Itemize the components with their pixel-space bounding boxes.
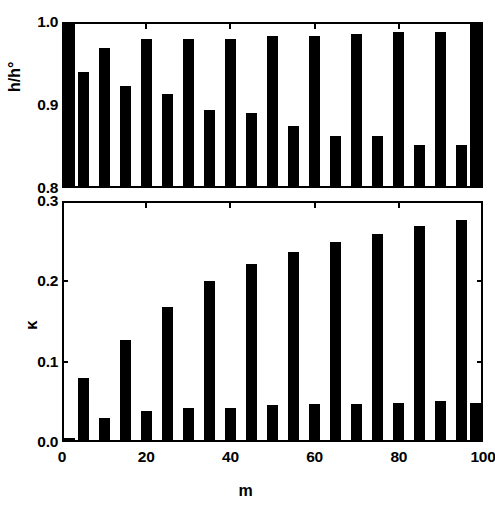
bar	[351, 404, 362, 440]
bar	[225, 39, 236, 186]
bar	[204, 110, 215, 186]
y-tick-label: 0.0	[37, 433, 58, 451]
x-tick-label: 20	[138, 448, 155, 466]
y-tick-mark	[477, 280, 483, 282]
x-tick-mark	[145, 22, 147, 29]
bar	[267, 36, 278, 186]
bar-series-bottom	[62, 201, 483, 442]
y-tick-label: 0.3	[37, 192, 58, 210]
y-tick-label: 0.9	[37, 96, 58, 114]
bar	[162, 307, 173, 441]
y-tick-mark	[477, 104, 483, 106]
x-tick-label: 60	[306, 448, 323, 466]
y-axis-title-top: h/h°	[6, 62, 24, 92]
bar	[393, 403, 404, 440]
bar	[372, 136, 383, 186]
bar-series-top	[62, 22, 483, 188]
bar	[78, 72, 89, 186]
bar	[99, 418, 110, 440]
panel-bottom	[62, 201, 483, 442]
x-tick-mark	[398, 201, 400, 208]
bar	[372, 234, 383, 440]
x-tick-label: 80	[390, 448, 407, 466]
bar	[393, 32, 404, 186]
x-tick-mark	[314, 22, 316, 29]
bar	[183, 39, 194, 186]
bar	[120, 340, 131, 440]
x-axis-title: m	[0, 482, 491, 500]
x-tick-label: 40	[222, 448, 239, 466]
bar	[141, 39, 152, 186]
y-tick-label: 0.2	[37, 272, 58, 290]
bar	[309, 404, 320, 440]
panel-top	[62, 22, 483, 188]
bar	[288, 252, 299, 440]
bar	[435, 401, 446, 440]
bar	[225, 408, 236, 440]
x-tick-mark	[229, 22, 231, 29]
bar	[456, 145, 467, 186]
bar	[162, 94, 173, 186]
bar	[267, 405, 278, 440]
x-tick-mark	[398, 22, 400, 29]
bar	[183, 408, 194, 440]
bar	[435, 32, 446, 186]
x-tick-label: 0	[58, 448, 66, 466]
bar	[99, 48, 110, 187]
y-tick-mark	[62, 361, 68, 363]
y-tick-mark	[62, 280, 68, 282]
bar	[330, 242, 341, 440]
bar	[414, 145, 425, 186]
y-tick-mark	[62, 104, 68, 106]
bar	[246, 264, 257, 440]
bar	[470, 403, 481, 440]
bar	[78, 378, 89, 440]
bar	[204, 281, 215, 440]
bar	[288, 126, 299, 186]
bar	[120, 86, 131, 186]
bar	[64, 438, 75, 440]
bar	[414, 226, 425, 440]
bar	[351, 34, 362, 186]
bar	[246, 113, 257, 186]
x-tick-mark	[314, 201, 316, 208]
bar	[141, 411, 152, 440]
y-tick-label: 1.0	[37, 13, 58, 31]
x-tick-label: 100	[471, 448, 495, 466]
y-tick-mark	[477, 361, 483, 363]
x-tick-mark	[145, 201, 147, 208]
bar	[309, 36, 320, 186]
y-tick-label: 0.1	[37, 353, 58, 371]
bar	[456, 220, 467, 440]
bar	[330, 136, 341, 186]
y-axis-title-bottom: κ	[22, 321, 42, 330]
x-tick-mark	[229, 201, 231, 208]
